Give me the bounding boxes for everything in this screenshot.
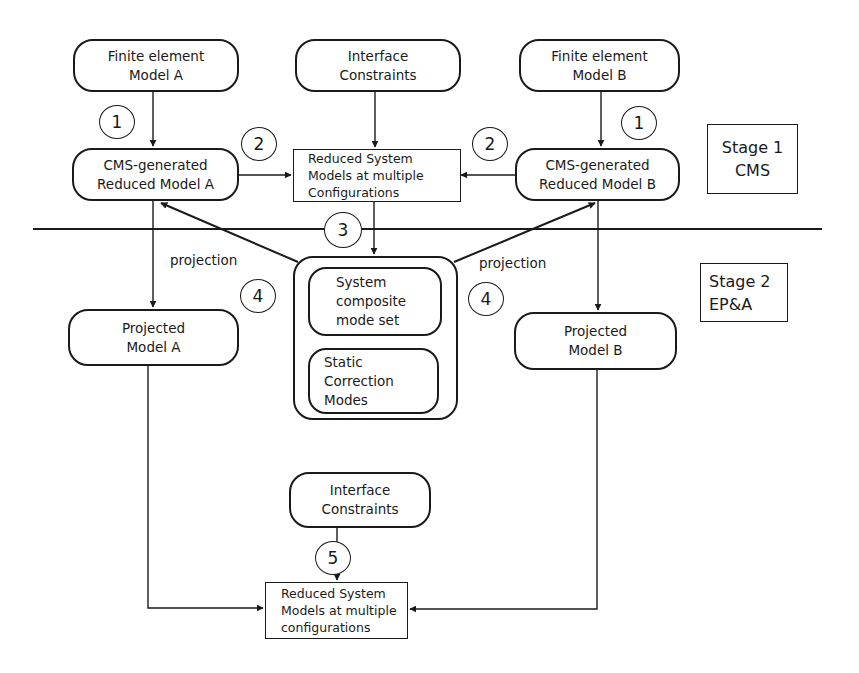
- node-text: Interface: [330, 481, 390, 500]
- node-text: Models at multiple: [281, 602, 397, 619]
- cms-reduced-model-a-node: CMS-generated Reduced Model A: [72, 148, 239, 201]
- node-text: Constraints: [339, 66, 416, 85]
- cms-epa-flow-diagram: Finite element Model A Interface Constra…: [0, 0, 859, 673]
- node-text: Interface: [348, 47, 408, 66]
- stage-title: Stage 1: [722, 136, 784, 159]
- step-marker-4-left: 4: [240, 279, 276, 313]
- step-marker-4-right: 4: [468, 282, 504, 316]
- stage-subtitle: EP&A: [709, 293, 752, 316]
- stage-subtitle: CMS: [735, 159, 770, 182]
- node-text: Reduced Model A: [97, 175, 214, 194]
- reduced-system-models-bottom-node: Reduced System Models at multiple config…: [265, 582, 408, 639]
- node-text: Constraints: [321, 500, 398, 519]
- step-marker-3: 3: [324, 212, 362, 248]
- node-text: Reduced Model B: [539, 175, 656, 194]
- node-text: Finite element: [108, 47, 204, 66]
- cms-reduced-model-b-node: CMS-generated Reduced Model B: [515, 148, 680, 201]
- system-composite-mode-set-node: System composite mode set: [308, 267, 442, 336]
- interface-constraints-bottom-node: Interface Constraints: [289, 472, 431, 528]
- node-text: configurations: [281, 619, 370, 636]
- static-correction-modes-node: Static Correction Modes: [308, 348, 439, 414]
- node-text: composite: [336, 292, 406, 311]
- fe-model-b-node: Finite element Model B: [519, 39, 680, 92]
- node-text: Static: [324, 353, 363, 372]
- node-text: System: [336, 273, 386, 292]
- node-text: Reduced System: [308, 150, 413, 167]
- node-text: CMS-generated: [545, 156, 649, 175]
- node-text: Models at multiple: [308, 167, 424, 184]
- stage-title: Stage 2: [709, 270, 771, 293]
- step-marker-2-right: 2: [472, 127, 508, 161]
- node-text: Model A: [126, 338, 180, 357]
- node-text: Correction: [324, 372, 394, 391]
- node-text: Model B: [572, 66, 626, 85]
- mode-set-container: System composite mode set Static Correct…: [293, 256, 458, 420]
- projection-label-right: projection: [479, 255, 546, 271]
- stage-2-label-box: Stage 2 EP&A: [700, 263, 788, 322]
- node-text: Model B: [568, 341, 622, 360]
- interface-constraints-top-node: Interface Constraints: [295, 39, 461, 92]
- node-text: Finite element: [551, 47, 647, 66]
- projected-model-a-node: Projected Model A: [68, 309, 239, 366]
- node-text: Projected: [122, 319, 185, 338]
- node-text: Projected: [564, 322, 627, 341]
- projected-model-b-node: Projected Model B: [514, 312, 677, 370]
- arrow-projected-a-to-rsm-bottom: [148, 366, 263, 608]
- stage-1-label-box: Stage 1 CMS: [707, 124, 798, 194]
- node-text: Modes: [324, 391, 368, 410]
- step-marker-1-right: 1: [621, 106, 657, 140]
- arrow-modeset-to-cms-b: [454, 203, 595, 262]
- step-marker-1-left: 1: [99, 105, 135, 139]
- step-marker-2-left: 2: [241, 127, 277, 161]
- node-text: Reduced System: [281, 585, 386, 602]
- reduced-system-models-top-node: Reduced System Models at multiple Config…: [293, 149, 461, 202]
- node-text: Configurations: [308, 184, 399, 201]
- step-marker-5: 5: [315, 541, 351, 575]
- node-text: CMS-generated: [103, 156, 207, 175]
- projection-label-left: projection: [170, 252, 237, 268]
- node-text: mode set: [336, 311, 399, 330]
- node-text: Model A: [129, 66, 183, 85]
- fe-model-a-node: Finite element Model A: [73, 39, 239, 92]
